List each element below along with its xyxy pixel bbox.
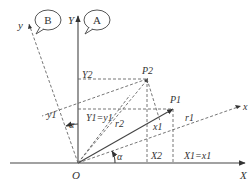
x-axis-rotated-arrow-icon	[235, 105, 241, 109]
y-axis-rotated-arrow-icon	[28, 24, 32, 29]
fixed-x-axis-label: X	[239, 169, 248, 181]
rotated-y-axis-label: y	[17, 19, 23, 31]
callout-a-label: A	[93, 14, 101, 26]
alpha-arc-bottom	[112, 151, 115, 163]
r2-label: r2	[115, 118, 124, 129]
r1-label: r1	[185, 112, 194, 123]
p1-label: P1	[169, 94, 181, 105]
y1-label: y1	[46, 109, 56, 120]
X2-label: X2	[150, 150, 162, 161]
Y2-label: Y2	[82, 69, 93, 80]
callout-b-label: B	[44, 14, 51, 26]
alpha-label-bottom: α	[117, 151, 123, 162]
rotated-x-axis-label: x	[242, 101, 248, 112]
fixed-y-axis-label: Y	[68, 14, 76, 26]
Y1-eq-y1-label: Y1=y1	[86, 112, 113, 123]
y-axis-rotated	[29, 24, 78, 163]
origin-label: O	[72, 169, 80, 181]
p2-label: P2	[141, 65, 153, 76]
proj-p2-to-rotated-x	[147, 79, 160, 121]
callout-a: A	[84, 10, 110, 34]
proj-p2-to-rotated-y	[42, 79, 147, 116]
X1-eq-x1-label: X1=x1	[183, 150, 211, 161]
x1-label: x1	[152, 121, 162, 132]
alpha-label-top: α	[69, 119, 75, 130]
rotation-diagram: B A Y y X x O P2 P1 r2 r1 Y2 y1 Y1=y1 x1…	[0, 0, 251, 195]
callout-b: B	[35, 10, 61, 34]
